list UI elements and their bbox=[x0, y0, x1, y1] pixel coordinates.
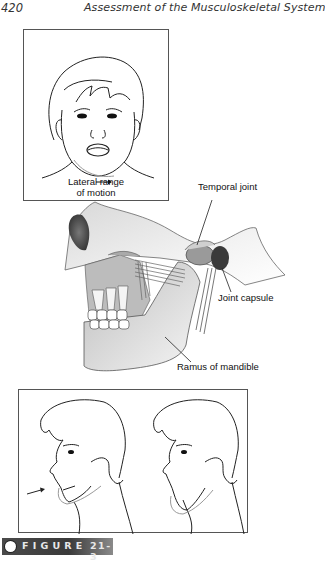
tmj-anatomy-illustration bbox=[0, 0, 294, 390]
label-ramus-of-mandible: Ramus of mandible bbox=[177, 361, 259, 372]
arrow-right-icon bbox=[27, 488, 45, 495]
profile-faces-illustration bbox=[19, 390, 249, 534]
profile-faces-inset bbox=[18, 389, 248, 533]
figure-number: 21-3 bbox=[90, 540, 113, 562]
label-joint-capsule: Joint capsule bbox=[218, 292, 273, 303]
figure-bullet-icon bbox=[5, 541, 16, 552]
label-temporal-joint: Temporal joint bbox=[198, 181, 257, 192]
figure-label: FIGURE bbox=[22, 540, 87, 551]
figure-caption-bar: FIGURE 21-3 bbox=[2, 538, 113, 555]
